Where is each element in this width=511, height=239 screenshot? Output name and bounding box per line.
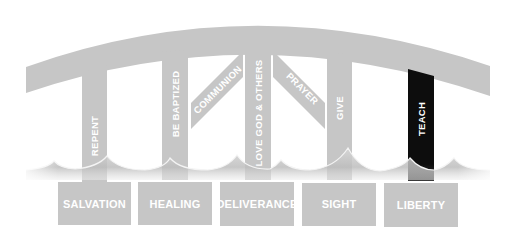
box-liberty: LIBERTY bbox=[384, 183, 458, 227]
box-salvation: SALVATION bbox=[58, 182, 131, 225]
pillar-prayer: PRAYER bbox=[273, 51, 325, 129]
box-label: DELIVERANCE bbox=[216, 198, 297, 210]
box-label: HEALING bbox=[150, 198, 201, 210]
pillar-label: GIVE bbox=[334, 96, 345, 120]
pillar-communion: COMMUNION bbox=[191, 51, 244, 129]
box-sight: SIGHT bbox=[302, 183, 376, 226]
pillar-label: COMMUNION bbox=[191, 63, 244, 116]
box-deliverance: DELIVERANCE bbox=[216, 182, 297, 226]
pillar-label: BE BAPTIZED bbox=[170, 71, 181, 138]
pillar-label: TEACH bbox=[416, 102, 427, 136]
box-healing: HEALING bbox=[138, 182, 212, 225]
box-label: SALVATION bbox=[63, 198, 126, 210]
box-label: SIGHT bbox=[322, 198, 357, 210]
bridge-diagram: REPENT BE BAPTIZED COMMUNION LOVE GOD & … bbox=[0, 0, 511, 239]
box-label: LIBERTY bbox=[397, 199, 446, 211]
